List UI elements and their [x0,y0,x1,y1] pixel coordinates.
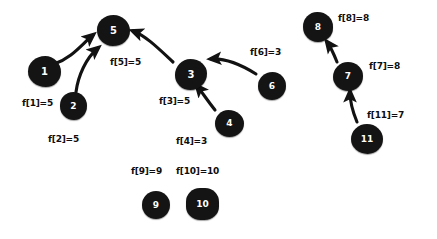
node-label-1: 1 [41,66,48,76]
finish-time-label-f11: f[11]=7 [367,110,404,120]
finish-time-label-f6: f[6]=3 [250,47,281,57]
node-label-11: 11 [361,134,374,143]
finish-time-label-f10: f[10]=10 [176,166,219,176]
graph-node-1[interactable]: 1 [28,56,61,87]
node-label-8: 8 [315,22,321,31]
finish-time-label-f1: f[1]=5 [22,98,53,108]
finish-time-label-f4: f[4]=3 [176,136,207,146]
graph-node-9[interactable]: 9 [142,191,170,219]
node-label-5: 5 [110,25,117,35]
node-label-4: 4 [226,119,232,128]
graph-node-7[interactable]: 7 [333,62,363,91]
diagram-canvas: 1234567891011 f[1]=5f[2]=5f[3]=5f[4]=3f[… [0,0,437,239]
finish-time-label-f8: f[8]=8 [338,13,369,23]
edge-6-to-3 [211,59,256,74]
graph-node-2[interactable]: 2 [60,92,87,120]
graph-node-3[interactable]: 3 [175,59,207,90]
edge-11-to-7 [350,92,357,122]
finish-time-label-f9: f[9]=9 [131,166,162,176]
finish-time-label-f3: f[3]=5 [159,96,190,106]
node-label-6: 6 [269,81,275,90]
finish-time-label-f2: f[2]=5 [48,134,79,144]
edge-2-to-5 [76,48,98,92]
node-label-9: 9 [153,200,159,209]
node-label-2: 2 [70,101,76,110]
finish-time-label-f5: f[5]=5 [110,57,141,67]
graph-node-5[interactable]: 5 [97,15,130,46]
graph-node-8[interactable]: 8 [303,12,333,42]
edge-4-to-3 [197,86,215,110]
graph-node-4[interactable]: 4 [215,110,244,137]
graph-node-10[interactable]: 10 [186,188,219,220]
finish-time-label-f7: f[7]=8 [369,61,400,71]
edge-7-to-8 [327,42,337,62]
edge-1-to-5 [54,35,93,64]
graph-node-11[interactable]: 11 [351,124,383,154]
node-label-7: 7 [345,72,351,81]
graph-node-6[interactable]: 6 [258,72,286,100]
node-label-3: 3 [188,69,195,79]
node-label-10: 10 [196,199,209,208]
